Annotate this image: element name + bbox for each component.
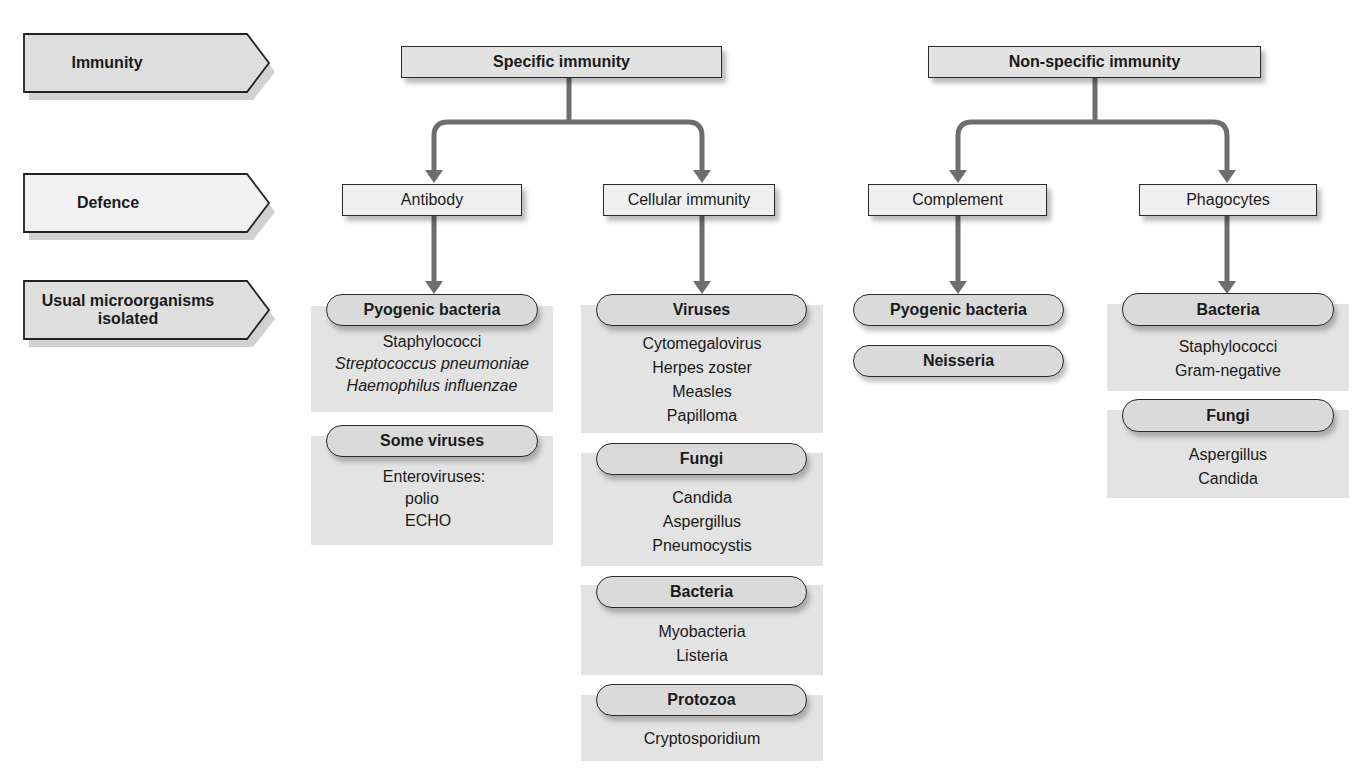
list-item: Haemophilus influenzae xyxy=(311,375,553,397)
list-cellular-protozoa: Cryptosporidium xyxy=(581,727,823,751)
row-label-microorganisms-line2: isolated xyxy=(98,310,158,328)
row-label-defence-text: Defence xyxy=(33,173,183,233)
list-item: Cytomegalovirus xyxy=(581,332,823,356)
row-label-microorganisms: Usual microorganisms isolated xyxy=(23,280,271,340)
list-item: polio xyxy=(311,488,553,510)
list-item: Gram-negative xyxy=(1107,359,1349,383)
row-label-microorganisms-text: Usual microorganisms isolated xyxy=(23,280,233,340)
pill-cellular-protozoa: Protozoa xyxy=(596,684,807,716)
list-item: ECHO xyxy=(311,510,553,532)
list-cellular-viruses: Cytomegalovirus Herpes zoster Measles Pa… xyxy=(581,332,823,428)
list-item: Enteroviruses: xyxy=(315,466,553,488)
list-phagocytes-bacteria: Staphylococci Gram-negative xyxy=(1107,335,1349,383)
list-item: Candida xyxy=(581,486,823,510)
row-label-immunity-text: Immunity xyxy=(43,33,171,93)
list-item: Myobacteria xyxy=(581,620,823,644)
node-antibody: Antibody xyxy=(342,184,522,216)
pill-phagocytes-fungi: Fungi xyxy=(1122,399,1334,432)
list-cellular-fungi: Candida Aspergillus Pneumocystis xyxy=(581,486,823,558)
node-phagocytes: Phagocytes xyxy=(1139,184,1317,216)
pill-antibody-some-viruses: Some viruses xyxy=(326,425,538,457)
list-phagocytes-fungi: Aspergillus Candida xyxy=(1107,443,1349,491)
row-label-defence: Defence xyxy=(23,173,271,233)
list-item: Cryptosporidium xyxy=(581,727,823,751)
list-item: Papilloma xyxy=(581,404,823,428)
node-specific-immunity: Specific immunity xyxy=(401,46,722,78)
pill-cellular-bacteria: Bacteria xyxy=(596,576,807,608)
node-non-specific-immunity: Non-specific immunity xyxy=(928,46,1261,78)
list-item: Pneumocystis xyxy=(581,534,823,558)
list-item: Measles xyxy=(581,380,823,404)
list-item: Candida xyxy=(1107,467,1349,491)
pill-phagocytes-bacteria: Bacteria xyxy=(1122,293,1334,326)
pill-cellular-viruses: Viruses xyxy=(596,294,807,326)
node-cellular-immunity: Cellular immunity xyxy=(603,184,775,216)
list-item: Staphylococci xyxy=(311,331,553,353)
list-item: Aspergillus xyxy=(1107,443,1349,467)
list-item: Staphylococci xyxy=(1107,335,1349,359)
list-item: Herpes zoster xyxy=(581,356,823,380)
node-complement: Complement xyxy=(868,184,1047,216)
pill-complement-pyogenic-bacteria: Pyogenic bacteria xyxy=(853,294,1064,326)
row-label-microorganisms-line1: Usual microorganisms xyxy=(42,292,215,310)
list-item: Streptococcus pneumoniae xyxy=(311,353,553,375)
list-antibody-some-viruses: Enteroviruses: polio ECHO xyxy=(311,466,553,532)
list-item: Listeria xyxy=(581,644,823,668)
list-antibody-pyogenic-bacteria: Staphylococci Streptococcus pneumoniae H… xyxy=(311,331,553,397)
row-label-immunity: Immunity xyxy=(23,33,271,93)
pill-antibody-pyogenic-bacteria: Pyogenic bacteria xyxy=(326,294,538,326)
pill-complement-neisseria: Neisseria xyxy=(853,345,1064,377)
pill-cellular-fungi: Fungi xyxy=(596,443,807,475)
list-cellular-bacteria: Myobacteria Listeria xyxy=(581,620,823,668)
list-item: Aspergillus xyxy=(581,510,823,534)
